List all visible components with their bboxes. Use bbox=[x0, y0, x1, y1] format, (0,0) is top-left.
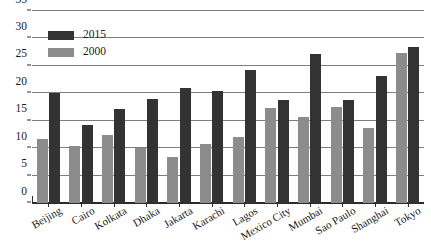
bar-group bbox=[359, 11, 392, 203]
bar bbox=[37, 139, 48, 203]
bar bbox=[233, 137, 244, 203]
bar bbox=[408, 47, 419, 203]
bar bbox=[200, 144, 211, 203]
legend-label-2000: 2000 bbox=[83, 46, 106, 58]
legend-label-2015: 2015 bbox=[83, 29, 106, 41]
y-tick-label-0: 0 bbox=[21, 186, 27, 198]
bar bbox=[167, 157, 178, 203]
x-axis-label: Tokyo bbox=[393, 205, 423, 229]
y-tick-label-10: 10 bbox=[16, 131, 28, 143]
bar bbox=[331, 107, 342, 203]
x-axis-label: Karachi bbox=[191, 205, 227, 232]
legend-item-2000: 2000 bbox=[48, 45, 106, 59]
x-axis-label: Cairo bbox=[70, 205, 97, 227]
y-tick-mark-30 bbox=[27, 37, 31, 38]
bar bbox=[147, 99, 158, 203]
bar bbox=[49, 93, 60, 203]
x-axis-label: Jakarta bbox=[162, 205, 194, 230]
bar-group bbox=[130, 11, 163, 203]
bar bbox=[102, 135, 113, 203]
bar bbox=[212, 91, 223, 203]
y-tick-label-35: 35 bbox=[16, 0, 28, 5]
legend-swatch-2015 bbox=[48, 31, 74, 40]
bar bbox=[396, 53, 407, 203]
x-axis-label: Dhaka bbox=[131, 205, 161, 229]
bar bbox=[180, 88, 191, 203]
legend-swatch-2000 bbox=[48, 48, 74, 57]
bar bbox=[82, 125, 93, 203]
y-axis-line bbox=[32, 196, 33, 203]
x-axis-label: Kolkata bbox=[93, 205, 129, 232]
y-tick-mark-25 bbox=[27, 64, 31, 65]
bar-chart: 05101520253035 BeijingCairoKolkataDhakaJ… bbox=[0, 0, 431, 248]
y-tick-mark-35 bbox=[27, 10, 31, 11]
bar-group bbox=[163, 11, 196, 203]
bar bbox=[135, 148, 146, 203]
legend-item-2015: 2015 bbox=[48, 28, 106, 42]
y-tick-mark-5 bbox=[27, 174, 31, 175]
x-axis-label: Beijing bbox=[30, 205, 64, 231]
y-tick-label-30: 30 bbox=[16, 21, 28, 33]
bar bbox=[278, 100, 289, 203]
y-tick-label-25: 25 bbox=[16, 49, 28, 61]
bar bbox=[265, 108, 276, 203]
y-tick-label-5: 5 bbox=[21, 158, 27, 170]
bar-group bbox=[261, 11, 294, 203]
y-tick-mark-20 bbox=[27, 92, 31, 93]
y-tick-label-15: 15 bbox=[16, 103, 28, 115]
bar-group bbox=[293, 11, 326, 203]
bar-group bbox=[228, 11, 261, 203]
x-axis-labels: BeijingCairoKolkataDhakaJakartaKarachiLa… bbox=[32, 205, 424, 248]
x-axis-label: Shanghai bbox=[349, 205, 390, 235]
y-tick-mark-0 bbox=[27, 202, 31, 203]
y-tick-mark-10 bbox=[27, 147, 31, 148]
bar bbox=[310, 54, 321, 203]
bar-group bbox=[326, 11, 359, 203]
bar bbox=[245, 70, 256, 203]
bar bbox=[298, 117, 309, 203]
y-tick-label-20: 20 bbox=[16, 76, 28, 88]
bar bbox=[114, 109, 125, 203]
bar-group bbox=[391, 11, 424, 203]
bar bbox=[343, 100, 354, 203]
y-tick-mark-15 bbox=[27, 119, 31, 120]
bar bbox=[69, 146, 80, 203]
bar bbox=[376, 76, 387, 203]
bar-group bbox=[195, 11, 228, 203]
chart-legend: 2015 2000 bbox=[48, 28, 106, 62]
bar bbox=[363, 128, 374, 203]
